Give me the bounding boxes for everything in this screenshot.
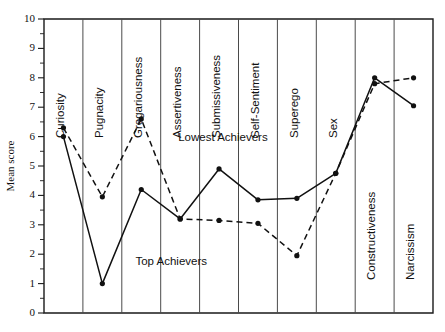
y-axis-tick-marks	[38, 19, 44, 313]
data-point-marker	[178, 216, 183, 221]
category-label: Narcissism	[404, 224, 416, 280]
category-label: Sex	[327, 118, 339, 138]
category-label: Assertiveness	[171, 66, 183, 138]
y-tick-label: 9	[30, 41, 36, 53]
data-point-marker	[61, 134, 66, 139]
data-point-marker	[372, 81, 377, 86]
category-label: Curiosity	[54, 93, 66, 138]
y-tick-label: 2	[30, 247, 36, 259]
data-point-marker	[61, 125, 66, 130]
category-labels: CuriosityPugnacityGregariousnessAssertiv…	[54, 55, 416, 280]
y-axis-title: Mean score	[4, 140, 16, 191]
data-point-marker	[216, 218, 221, 223]
category-label: Constructiveness	[365, 192, 377, 280]
data-point-marker	[411, 103, 416, 108]
category-label: Self-Sentiment	[249, 62, 261, 138]
y-tick-label: 4	[30, 188, 36, 200]
data-point-marker	[294, 253, 299, 258]
category-label: Superego	[288, 88, 300, 138]
data-point-marker	[411, 75, 416, 80]
y-tick-label: 7	[30, 100, 36, 112]
data-point-marker	[372, 75, 377, 80]
line-chart: 012345678910 Mean score CuriosityPugnaci…	[0, 0, 445, 332]
y-axis-tick-labels: 012345678910	[24, 12, 36, 318]
data-point-marker	[139, 187, 144, 192]
data-point-marker	[139, 116, 144, 121]
category-dividers	[83, 19, 394, 313]
y-axis-group: 012345678910 Mean score	[4, 12, 44, 318]
data-point-marker	[333, 171, 338, 176]
data-point-marker	[294, 196, 299, 201]
data-point-marker	[100, 281, 105, 286]
series-annotations: Lowest AchieversTop Achievers	[135, 131, 268, 267]
category-label: Submissiveness	[210, 55, 222, 138]
curve-annotation: Lowest Achievers	[178, 131, 268, 143]
y-tick-label: 10	[24, 12, 36, 24]
data-point-marker	[100, 194, 105, 199]
data-point-marker	[216, 166, 221, 171]
data-point-marker	[255, 197, 260, 202]
y-tick-label: 5	[30, 159, 36, 171]
y-tick-label: 3	[30, 218, 36, 230]
y-tick-label: 0	[30, 306, 36, 318]
data-point-marker	[255, 221, 260, 226]
y-tick-label: 8	[30, 71, 36, 83]
category-label: Gregariousness	[132, 57, 144, 138]
chart-container: 012345678910 Mean score CuriosityPugnaci…	[0, 0, 445, 332]
category-label: Pugnacity	[93, 87, 105, 138]
y-tick-label: 6	[30, 130, 36, 142]
curve-annotation: Top Achievers	[135, 255, 207, 267]
y-tick-label: 1	[30, 277, 36, 289]
